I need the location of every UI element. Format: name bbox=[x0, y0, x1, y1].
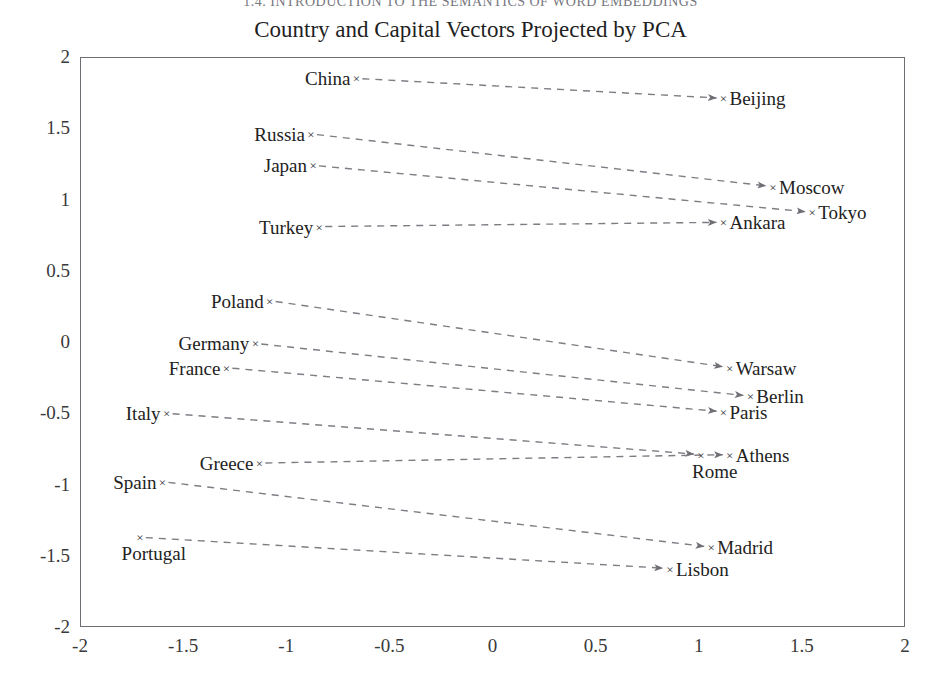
x-axis-tick: 1.5 bbox=[790, 635, 814, 657]
x-axis-tick: -0.5 bbox=[374, 635, 404, 657]
y-axis-tick: 1.5 bbox=[18, 117, 70, 139]
y-axis-tick: 1 bbox=[18, 189, 70, 211]
point-china: × bbox=[353, 72, 360, 85]
point-madrid: × bbox=[707, 541, 714, 554]
label-moscow: Moscow bbox=[779, 177, 844, 196]
point-rome: × bbox=[697, 448, 704, 461]
x-axis-tick: -2 bbox=[72, 635, 88, 657]
point-ankara: × bbox=[720, 216, 727, 229]
label-spain: Spain bbox=[113, 472, 156, 491]
point-germany: × bbox=[252, 337, 259, 350]
vector-arrow bbox=[261, 344, 743, 395]
label-madrid: Madrid bbox=[717, 538, 773, 557]
vector-arrow bbox=[325, 222, 716, 226]
point-turkey: × bbox=[316, 220, 323, 233]
label-athens: Athens bbox=[736, 445, 790, 464]
point-athens: × bbox=[726, 448, 733, 461]
chart-title: Country and Capital Vectors Projected by… bbox=[0, 17, 941, 43]
vector-arrow bbox=[168, 482, 704, 546]
point-japan: × bbox=[309, 159, 316, 172]
label-turkey: Turkey bbox=[259, 217, 313, 236]
point-moscow: × bbox=[769, 180, 776, 193]
point-poland: × bbox=[266, 294, 273, 307]
running-header: 1.4. INTRODUCTION TO THE SEMANTICS OF WO… bbox=[0, 0, 941, 8]
point-portugal: × bbox=[136, 531, 143, 544]
x-axis-tick: -1 bbox=[278, 635, 294, 657]
point-spain: × bbox=[159, 475, 166, 488]
label-china: China bbox=[305, 69, 350, 88]
label-japan: Japan bbox=[264, 156, 307, 175]
x-axis-tick: 1 bbox=[694, 635, 704, 657]
y-axis-tick: 2 bbox=[18, 46, 70, 68]
point-paris: × bbox=[720, 405, 727, 418]
point-italy: × bbox=[163, 407, 170, 420]
label-italy: Italy bbox=[126, 404, 161, 423]
figure-page: 1.4. INTRODUCTION TO THE SEMANTICS OF WO… bbox=[0, 0, 941, 691]
vector-arrow bbox=[265, 455, 722, 463]
label-portugal: Portugal bbox=[122, 544, 186, 563]
label-tokyo: Tokyo bbox=[818, 203, 866, 222]
x-axis-tick: 0.5 bbox=[584, 635, 608, 657]
x-axis-tick: 2 bbox=[900, 635, 910, 657]
vector-arrow bbox=[317, 135, 766, 186]
point-beijing: × bbox=[720, 92, 727, 105]
vector-arrow bbox=[146, 538, 663, 569]
point-greece: × bbox=[256, 457, 263, 470]
point-france: × bbox=[223, 361, 230, 374]
label-russia: Russia bbox=[254, 124, 305, 143]
point-lisbon: × bbox=[666, 562, 673, 575]
vector-arrow bbox=[173, 414, 694, 454]
vector-arrow bbox=[276, 302, 723, 367]
y-axis-tick: -1.5 bbox=[18, 545, 70, 567]
label-greece: Greece bbox=[200, 454, 254, 473]
y-axis-tick: 0 bbox=[18, 331, 70, 353]
y-axis-tick: -0.5 bbox=[18, 402, 70, 424]
y-axis-tick: -2 bbox=[18, 616, 70, 638]
label-beijing: Beijing bbox=[730, 89, 786, 108]
label-rome: Rome bbox=[692, 462, 737, 481]
y-axis-tick: 0.5 bbox=[18, 260, 70, 282]
point-russia: × bbox=[307, 127, 314, 140]
label-germany: Germany bbox=[179, 334, 250, 353]
label-warsaw: Warsaw bbox=[736, 358, 797, 377]
vector-arrow bbox=[232, 368, 716, 411]
point-warsaw: × bbox=[726, 361, 733, 374]
label-paris: Paris bbox=[730, 402, 768, 421]
x-axis-tick: -1.5 bbox=[168, 635, 198, 657]
label-ankara: Ankara bbox=[730, 213, 786, 232]
label-poland: Poland bbox=[211, 291, 264, 310]
vector-arrow bbox=[319, 166, 805, 212]
x-axis-tick: 0 bbox=[488, 635, 498, 657]
vector-arrow bbox=[362, 79, 716, 98]
label-france: France bbox=[169, 358, 221, 377]
y-axis-tick: -1 bbox=[18, 474, 70, 496]
label-lisbon: Lisbon bbox=[676, 559, 729, 578]
point-tokyo: × bbox=[809, 206, 816, 219]
